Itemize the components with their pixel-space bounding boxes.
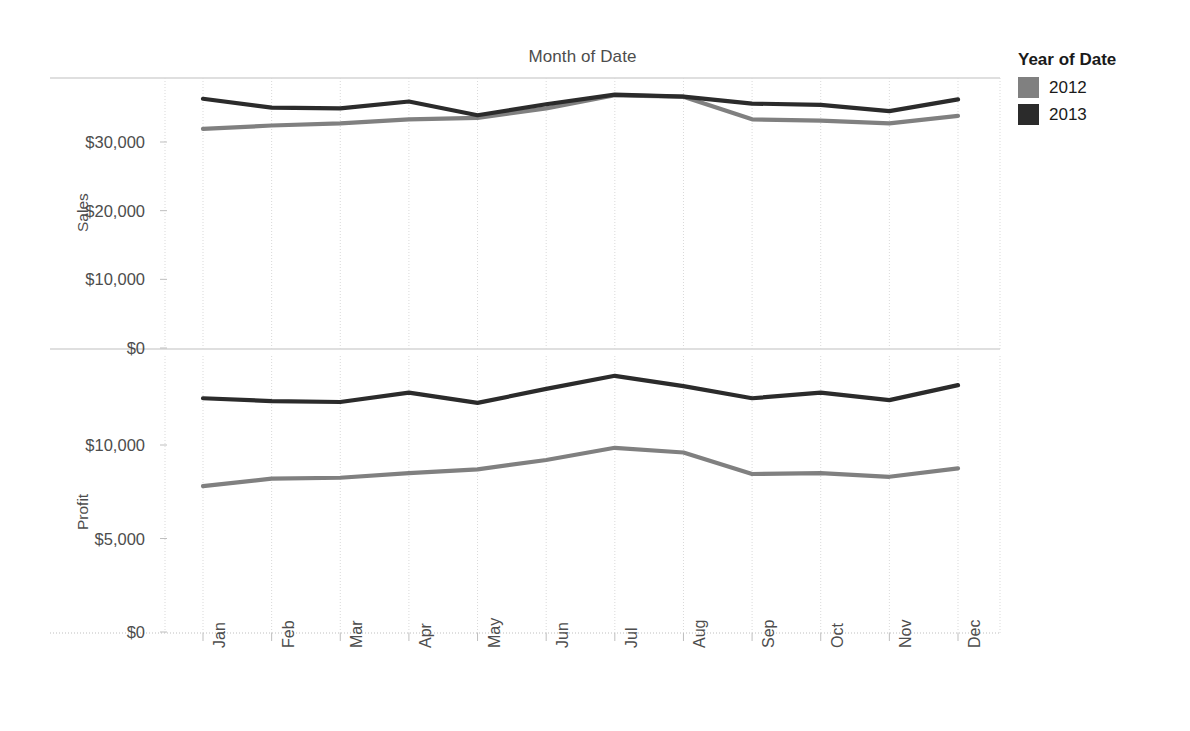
profit-y-tick-label: $10,000 <box>25 436 145 455</box>
plot-area <box>0 0 1190 731</box>
profit-y-tick-label: $5,000 <box>25 529 145 548</box>
legend: Year of Date 20122013 <box>1018 50 1188 131</box>
legend-item-2013[interactable]: 2013 <box>1018 104 1188 125</box>
x-tick-label-may: May <box>486 618 504 648</box>
x-tick-label-aug: Aug <box>691 620 709 648</box>
profit-series-2013 <box>203 376 958 403</box>
x-tick-label-mar: Mar <box>348 620 366 648</box>
x-tick-label-feb: Feb <box>280 620 298 648</box>
x-tick-label-nov: Nov <box>897 620 915 648</box>
legend-label-2012: 2012 <box>1049 78 1087 98</box>
x-tick-label-jun: Jun <box>554 622 572 648</box>
sales-series-2013 <box>203 95 958 116</box>
profit-axis-title: Profit <box>74 494 92 530</box>
profit-y-tick-label: $0 <box>25 623 145 642</box>
legend-title: Year of Date <box>1018 50 1188 70</box>
plot-svg <box>0 0 1190 731</box>
x-tick-label-sep: Sep <box>760 620 778 648</box>
legend-label-2013: 2013 <box>1049 105 1087 125</box>
x-tick-label-dec: Dec <box>966 620 984 648</box>
sales-y-tick-label: $20,000 <box>25 201 145 220</box>
legend-item-2012[interactable]: 2012 <box>1018 77 1188 98</box>
x-tick-label-oct: Oct <box>829 623 847 648</box>
sales-y-tick-label: $30,000 <box>25 133 145 152</box>
x-tick-label-jul: Jul <box>623 628 641 648</box>
sales-y-tick-label: $10,000 <box>25 270 145 289</box>
profit-series-2012 <box>203 448 958 486</box>
legend-swatch-2012 <box>1018 77 1039 98</box>
x-tick-label-apr: Apr <box>417 623 435 648</box>
x-tick-label-jan: Jan <box>211 622 229 648</box>
chart-root: Month of Date Sales Profit $0$10,000$20,… <box>0 0 1190 731</box>
sales-y-tick-label: $0 <box>25 339 145 358</box>
legend-items: 20122013 <box>1018 77 1188 125</box>
legend-swatch-2013 <box>1018 104 1039 125</box>
